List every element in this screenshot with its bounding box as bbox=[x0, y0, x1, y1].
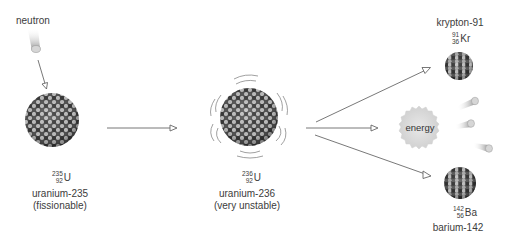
released-neutron-icon bbox=[457, 97, 479, 110]
mass-number: 235 bbox=[52, 170, 63, 177]
krypton-91-nucleus-icon bbox=[445, 52, 473, 80]
uranium-235-isotope-notation: 235 92 U bbox=[52, 170, 71, 184]
atomic-number: 56 bbox=[457, 212, 464, 219]
uranium-236-nucleus-icon bbox=[211, 75, 288, 158]
uranium-236-name: uranium-236 bbox=[210, 188, 284, 200]
atomic-number: 36 bbox=[452, 38, 459, 45]
uranium-235-name: uranium-235 bbox=[30, 188, 90, 200]
incoming-neutron-icon bbox=[28, 28, 41, 53]
neutron-label: neutron bbox=[16, 15, 50, 27]
uranium-235-nucleus-icon bbox=[25, 93, 79, 147]
uranium-236-note: (very unstable) bbox=[210, 200, 284, 212]
energy-label: energy bbox=[400, 122, 440, 133]
released-neutron-icon bbox=[455, 120, 475, 129]
barium-142-nucleus-icon bbox=[444, 167, 476, 199]
released-neutrons bbox=[455, 97, 493, 152]
element-symbol: Ba bbox=[465, 207, 477, 218]
atomic-number: 92 bbox=[56, 177, 63, 184]
element-symbol: U bbox=[64, 172, 71, 183]
released-neutron-icon bbox=[473, 143, 493, 152]
mass-number: 91 bbox=[452, 31, 459, 38]
uranium-235-note: (fissionable) bbox=[30, 200, 90, 212]
mass-number: 236 bbox=[242, 170, 253, 177]
atomic-number: 92 bbox=[246, 177, 253, 184]
barium-142-name: barium-142 bbox=[428, 222, 488, 234]
neutron-arrow bbox=[38, 60, 48, 89]
element-symbol: Kr bbox=[460, 33, 470, 44]
barium-142-isotope-notation: 142 56 Ba bbox=[453, 205, 477, 219]
krypton-91-name: krypton-91 bbox=[430, 17, 490, 29]
mass-number: 142 bbox=[453, 205, 464, 212]
uranium-236-isotope-notation: 236 92 U bbox=[242, 170, 261, 184]
krypton-91-isotope-notation: 91 36 Kr bbox=[452, 31, 470, 45]
arrow-to-uranium-236 bbox=[107, 125, 177, 131]
element-symbol: U bbox=[254, 172, 261, 183]
